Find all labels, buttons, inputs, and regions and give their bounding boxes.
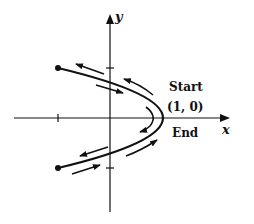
- direction-arrows: [72, 64, 157, 174]
- x-axis-arrow-icon: [220, 114, 230, 122]
- y-axis-arrow-icon: [106, 14, 114, 24]
- end-label: End: [172, 127, 198, 139]
- vertex-coordinate-label: (1, 0): [167, 101, 203, 113]
- x-axis-label: x: [222, 123, 230, 136]
- arrow-upper-outer-vertex-icon: [124, 79, 153, 95]
- lower-endpoint-dot: [55, 165, 61, 171]
- start-label: Start: [169, 81, 203, 93]
- y-axis-label: y: [115, 10, 123, 23]
- arrow-inner-vertex-icon: [140, 107, 153, 132]
- y-axis: [106, 14, 114, 212]
- arrow-lower-outer-far-icon: [72, 165, 100, 174]
- parametric-parabola-diagram: [0, 0, 254, 224]
- upper-endpoint-dot: [55, 65, 61, 71]
- arrow-lower-outer-icon: [126, 140, 157, 156]
- x-axis: [14, 114, 230, 122]
